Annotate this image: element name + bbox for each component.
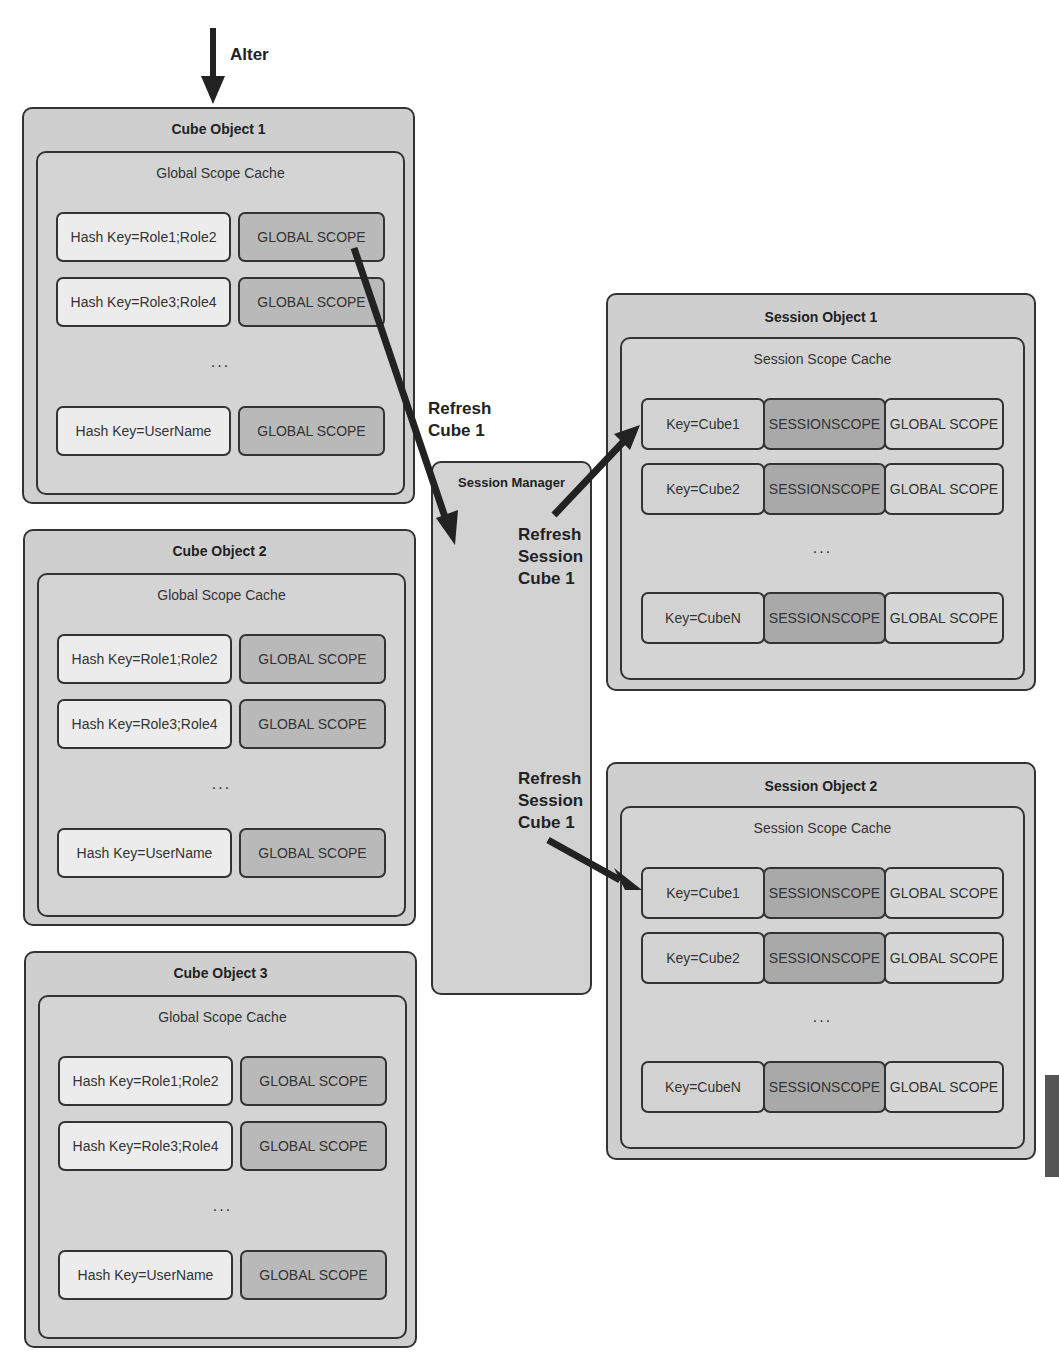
cube-object-title: Cube Object 3 <box>26 965 415 981</box>
refresh-session-label-2: Refresh Session Cube 1 <box>518 768 583 834</box>
session-key-cell: Key=Cube1 <box>641 867 765 919</box>
session-object-2: Session Object 2 Session Scope Cache Key… <box>606 762 1036 1160</box>
session-scope-cell: SESSIONSCOPE <box>763 463 886 515</box>
global-scope-cache: Global Scope Cache Hash Key=Role1;Role2 … <box>37 573 406 917</box>
cache-title: Global Scope Cache <box>40 1009 405 1025</box>
cache-title: Session Scope Cache <box>622 351 1023 367</box>
session-scope-cache: Session Scope Cache Key=Cube1 SESSIONSCO… <box>620 806 1025 1149</box>
cache-title: Global Scope Cache <box>39 587 404 603</box>
global-scope-cell: GLOBAL SCOPE <box>239 828 386 878</box>
session-scope-cell: SESSIONSCOPE <box>763 932 886 984</box>
session-key-cell: Key=CubeN <box>641 1061 765 1113</box>
global-scope-cell: GLOBAL SCOPE <box>238 212 385 262</box>
global-scope-cache: Global Scope Cache Hash Key=Role1;Role2 … <box>38 995 407 1339</box>
global-scope-cell: GLOBAL SCOPE <box>240 1056 387 1106</box>
global-scope-cell: GLOBAL SCOPE <box>240 1121 387 1171</box>
global-scope-cell: GLOBAL SCOPE <box>884 867 1004 919</box>
ellipsis: ... <box>40 1197 405 1215</box>
hash-key-cell: Hash Key=UserName <box>56 406 231 456</box>
session-manager-title: Session Manager <box>433 475 590 490</box>
hash-key-cell: Hash Key=Role1;Role2 <box>58 1056 233 1106</box>
session-scope-cell: SESSIONSCOPE <box>763 1061 886 1113</box>
session-key-cell: Key=Cube2 <box>641 463 765 515</box>
cube-object-title: Cube Object 2 <box>25 543 414 559</box>
ellipsis: ... <box>622 539 1023 557</box>
ellipsis: ... <box>38 353 403 371</box>
session-object-1: Session Object 1 Session Scope Cache Key… <box>606 293 1036 691</box>
global-scope-cell: GLOBAL SCOPE <box>884 463 1004 515</box>
cube-object-2: Cube Object 2 Global Scope Cache Hash Ke… <box>23 529 416 926</box>
global-scope-cell: GLOBAL SCOPE <box>884 398 1004 450</box>
session-scope-cell: SESSIONSCOPE <box>763 592 886 644</box>
global-scope-cell: GLOBAL SCOPE <box>240 1250 387 1300</box>
hash-key-cell: Hash Key=UserName <box>58 1250 233 1300</box>
global-scope-cell: GLOBAL SCOPE <box>238 277 385 327</box>
session-object-title: Session Object 2 <box>608 778 1034 794</box>
hash-key-cell: Hash Key=Role3;Role4 <box>57 699 232 749</box>
global-scope-cell: GLOBAL SCOPE <box>239 634 386 684</box>
global-scope-cache: Global Scope Cache Hash Key=Role1;Role2 … <box>36 151 405 495</box>
alter-arrow-icon <box>201 28 225 104</box>
session-key-cell: Key=CubeN <box>641 592 765 644</box>
session-scope-cell: SESSIONSCOPE <box>763 867 886 919</box>
cube-object-3: Cube Object 3 Global Scope Cache Hash Ke… <box>24 951 417 1348</box>
cube-object-title: Cube Object 1 <box>24 121 413 137</box>
hash-key-cell: Hash Key=Role1;Role2 <box>56 212 231 262</box>
hash-key-cell: Hash Key=UserName <box>57 828 232 878</box>
session-scope-cache: Session Scope Cache Key=Cube1 SESSIONSCO… <box>620 337 1025 680</box>
ellipsis: ... <box>622 1008 1023 1026</box>
page-edge-tab <box>1045 1075 1059 1177</box>
session-object-title: Session Object 1 <box>608 309 1034 325</box>
refresh-cube-label: Refresh Cube 1 <box>428 398 491 442</box>
session-scope-cell: SESSIONSCOPE <box>763 398 886 450</box>
alter-label: Alter <box>230 44 269 66</box>
cache-title: Session Scope Cache <box>622 820 1023 836</box>
hash-key-cell: Hash Key=Role3;Role4 <box>58 1121 233 1171</box>
session-key-cell: Key=Cube1 <box>641 398 765 450</box>
global-scope-cell: GLOBAL SCOPE <box>884 1061 1004 1113</box>
refresh-session-label-1: Refresh Session Cube 1 <box>518 524 583 590</box>
ellipsis: ... <box>39 775 404 793</box>
global-scope-cell: GLOBAL SCOPE <box>884 592 1004 644</box>
global-scope-cell: GLOBAL SCOPE <box>884 932 1004 984</box>
hash-key-cell: Hash Key=Role3;Role4 <box>56 277 231 327</box>
global-scope-cell: GLOBAL SCOPE <box>239 699 386 749</box>
session-key-cell: Key=Cube2 <box>641 932 765 984</box>
hash-key-cell: Hash Key=Role1;Role2 <box>57 634 232 684</box>
cube-object-1: Cube Object 1 Global Scope Cache Hash Ke… <box>22 107 415 504</box>
cache-title: Global Scope Cache <box>38 165 403 181</box>
global-scope-cell: GLOBAL SCOPE <box>238 406 385 456</box>
